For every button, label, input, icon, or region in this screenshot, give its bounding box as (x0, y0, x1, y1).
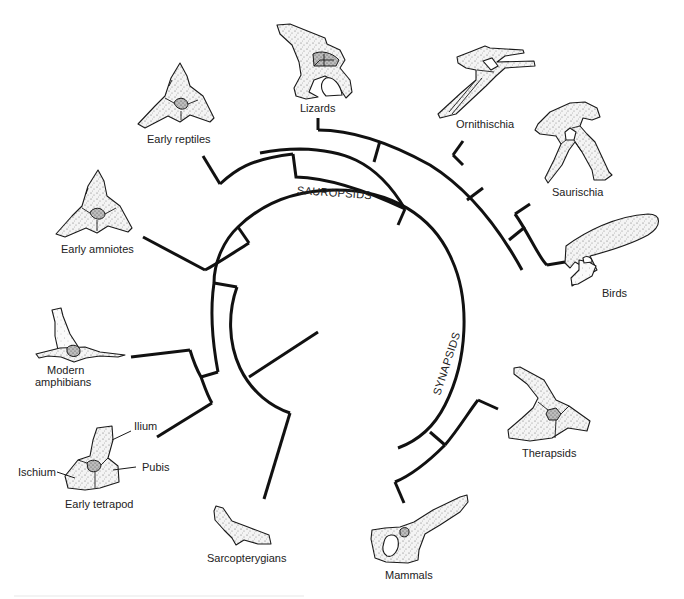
branch-early-amniotes-node (238, 227, 249, 243)
bone-part-label-ischium: Ischium (18, 466, 56, 478)
arc-amphibian-pair (190, 350, 212, 403)
taxon-label-modern-amphibians-line1: Modern (47, 364, 84, 376)
arc-mammal-node (395, 445, 445, 482)
taxon-label-sarcopterygians: Sarcopterygians (207, 552, 287, 564)
root-stem (249, 332, 318, 377)
tree-branches (131, 118, 565, 503)
pelvis-illustration-mammals (371, 495, 468, 563)
pelvis-illustration-ornithischia (438, 46, 535, 118)
branch-modern-amphibians (131, 350, 190, 357)
arc-amphibians (212, 283, 218, 372)
branch-mammals (395, 482, 404, 503)
taxon-label-mammals: Mammals (385, 569, 433, 581)
branch-therapsids (478, 400, 498, 409)
pelvic-girdle-cladogram: SAUROPSIDS SYNAPSIDS Lizards Ornithischi… (0, 0, 684, 599)
branch-birds (547, 262, 565, 265)
arc-synapsids (430, 432, 445, 445)
taxon-label-early-tetrapod: Early tetrapod (65, 498, 133, 510)
taxon-label-ornithischia: Ornithischia (456, 118, 515, 130)
branch-early-amniotes (143, 237, 205, 270)
branch-sarcopterygians (264, 413, 290, 499)
pelvis-illustration-therapsids (508, 367, 590, 441)
pelvis-illustration-modern-amphibians (36, 308, 125, 362)
taxon-label-therapsids: Therapsids (522, 447, 577, 459)
branch-ornithischia (453, 141, 463, 155)
taxon-label-early-reptiles: Early reptiles (147, 133, 211, 145)
pelvis-illustration-early-tetrapod (65, 426, 119, 490)
arc-saurischia-birds (515, 214, 547, 265)
taxon-label-birds: Birds (602, 287, 628, 299)
pelvis-illustration-early-reptiles (138, 63, 214, 128)
arc-ornithischia (453, 155, 463, 165)
connector-sauropsid-top (293, 154, 405, 209)
bone-part-label-ilium: Ilium (134, 420, 157, 432)
arc-early-amniotes (205, 243, 249, 270)
pelvis-illustration-saurischia (535, 102, 612, 183)
arc-diapsids (318, 130, 522, 270)
taxon-label-early-amniotes: Early amniotes (61, 243, 134, 255)
leader-ilium (112, 431, 131, 440)
arc-tetrapod-node (231, 287, 290, 413)
pelvis-illustration-early-amniotes (56, 170, 132, 237)
arc-amniotes (214, 190, 464, 448)
connector-diapsids (374, 141, 380, 162)
clade-label-synapsids: SYNAPSIDS (430, 330, 462, 396)
connector-archosaurs (467, 188, 483, 200)
branch-saurischia (515, 204, 530, 214)
taxon-label-saurischia: Saurischia (552, 186, 604, 198)
branch-amphibian-node (201, 372, 218, 377)
pelvis-illustration-birds (565, 214, 659, 286)
branch-early-tetrapod (157, 403, 212, 437)
pelvis-illustration-sarcopterygians (214, 506, 271, 545)
clade-label-sauropsids: SAUROPSIDS (297, 184, 373, 201)
taxon-label-lizards: Lizards (300, 102, 336, 114)
connector-therapsid-node (445, 400, 478, 445)
caption-strip (14, 595, 304, 597)
taxon-label-modern-amphibians-line2: amphibians (35, 376, 92, 388)
arc-early-reptiles (220, 154, 293, 184)
connector-saurischia (509, 227, 525, 240)
connector-amphibia (214, 283, 237, 287)
bone-part-label-pubis: Pubis (142, 461, 170, 473)
pelvis-illustration-lizards (277, 24, 352, 99)
branch-early-reptiles (203, 156, 220, 184)
connector-sauropsids (398, 209, 405, 225)
